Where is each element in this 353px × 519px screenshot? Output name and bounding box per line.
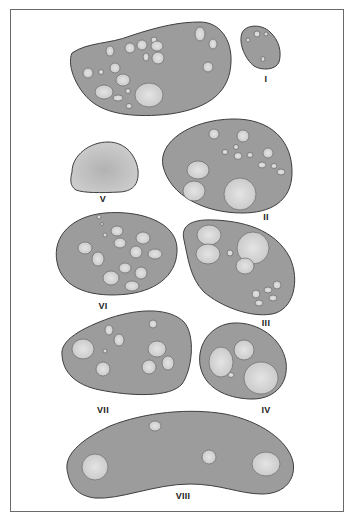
label-section-V: V (100, 194, 106, 204)
section-V (71, 142, 138, 193)
label-section-VII: VII (97, 405, 109, 415)
label-section-IV: IV (261, 405, 270, 415)
label-section-III: III (262, 318, 270, 328)
label-section-VIII: VIII (176, 491, 191, 501)
label-section-II: II (263, 212, 269, 222)
section-I (241, 26, 280, 69)
cross-sections-diagram (0, 0, 353, 519)
label-section-I: I (265, 74, 268, 84)
label-section-VI: VI (98, 301, 107, 311)
